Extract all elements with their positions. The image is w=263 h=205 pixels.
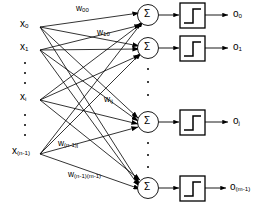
output-label-om-1: o(m-1)	[230, 182, 250, 192]
input-label-xi: xi	[20, 92, 26, 102]
weight-label-wij: wij	[104, 95, 113, 104]
ellipsis-dot	[147, 81, 149, 83]
sum-node-label-1: Σ	[144, 42, 150, 52]
ellipsis-dot	[147, 154, 149, 156]
ellipsis-dot	[147, 166, 149, 168]
input-ellipsis-lower	[22, 114, 28, 136]
output-label-oj: oj	[233, 116, 240, 126]
sum-node-circles	[138, 5, 159, 199]
edge-x1-sum0	[40, 25, 141, 50]
synapse-edges	[40, 13, 143, 189]
sum-node-label-j: Σ	[144, 116, 150, 126]
ellipsis-dot	[24, 62, 26, 64]
sum-to-activation-edges	[159, 15, 179, 188]
edge-x1-sumj	[40, 50, 138, 121]
ellipsis-dot	[24, 114, 26, 116]
diagram-canvas	[0, 0, 263, 205]
edge-xn1-sumj	[40, 127, 138, 154]
ellipsis-dot	[24, 72, 26, 74]
input-label-x0: x0	[20, 19, 28, 29]
node-ellipsis-lower	[145, 142, 151, 168]
weight-label-wn-1m-1: w(n-1)(m-1)	[68, 170, 101, 179]
neural-network-diagram: x0 x1 xi x(n-1) w00 w10 wij w(n-1)j w(n-…	[0, 0, 263, 205]
weight-label-wn-1j: w(n-1)j	[58, 139, 78, 148]
ellipsis-dot	[147, 94, 149, 96]
input-ellipsis-upper	[22, 62, 28, 84]
weight-label-w00: w00	[76, 4, 89, 13]
ellipsis-dot	[24, 124, 26, 126]
output-label-o1: o1	[233, 42, 242, 52]
ellipsis-dot	[24, 134, 26, 136]
sum-node-label-m1: Σ	[144, 182, 150, 192]
activation-boxes	[180, 3, 205, 201]
edge-x0-sum0	[40, 13, 139, 27]
edge-x1-sum1	[40, 49, 139, 50]
input-label-x1: x1	[20, 42, 28, 52]
node-ellipsis-upper	[145, 68, 151, 96]
weight-label-w10: w10	[97, 28, 110, 37]
ellipsis-dot	[147, 68, 149, 70]
input-label-xn-1: x(n-1)	[12, 146, 30, 156]
ellipsis-dot	[24, 82, 26, 84]
sum-node-label-0: Σ	[144, 9, 150, 19]
edge-xi-sum1	[40, 55, 140, 100]
output-label-o0: o0	[233, 9, 242, 19]
ellipsis-dot	[147, 142, 149, 144]
activation-to-output-edges	[205, 15, 228, 188]
